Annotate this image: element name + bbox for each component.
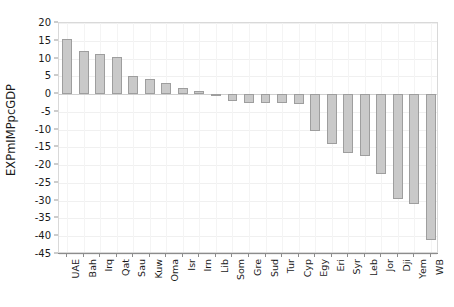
x-tick-label: Eri (335, 259, 346, 272)
bar (244, 94, 254, 103)
bar (62, 39, 72, 94)
x-tick-label: Lib (219, 259, 230, 273)
bar (409, 94, 419, 204)
bar (327, 94, 337, 144)
y-axis-tick-labels: 20151050-5-10-15-20-25-30-35-40-45 (22, 0, 54, 307)
x-tick-mark (231, 253, 232, 257)
y-tick-label: -30 (35, 194, 51, 205)
y-tick-mark (54, 110, 58, 111)
bar (310, 94, 320, 131)
bar (393, 94, 403, 199)
y-tick-mark (54, 75, 58, 76)
bar (95, 54, 105, 95)
y-tick-mark (54, 57, 58, 58)
y-tick-mark (54, 22, 58, 23)
x-tick-mark (116, 253, 117, 257)
x-axis-tick-labels: UAEBahIrqQatSauKuwOmaIsrIrnLibSomGreSudT… (58, 253, 438, 307)
x-tick-mark (248, 253, 249, 257)
x-tick-mark (83, 253, 84, 257)
y-tick-label: -25 (35, 176, 51, 187)
x-tick-label: Yem (417, 259, 428, 279)
y-tick-label: -20 (35, 159, 51, 170)
bar (194, 91, 204, 94)
x-tick-label: Qat (120, 259, 131, 276)
y-tick-label: -10 (35, 123, 51, 134)
y-tick-label: 5 (45, 70, 51, 81)
y-tick-label: -15 (35, 141, 51, 152)
bar (277, 94, 287, 103)
bar (360, 94, 370, 156)
x-tick-label: Gre (252, 259, 263, 276)
y-tick-label: 15 (38, 34, 51, 45)
x-tick-label: Kuw (153, 259, 164, 279)
x-tick-mark (215, 253, 216, 257)
x-tick-mark (413, 253, 414, 257)
y-tick-label: -45 (35, 248, 51, 259)
y-tick-mark (54, 93, 58, 94)
y-tick-mark (54, 146, 58, 147)
y-tick-mark (54, 181, 58, 182)
bar (145, 79, 155, 94)
y-tick-mark (54, 164, 58, 165)
x-tick-mark (165, 253, 166, 257)
bar (261, 94, 271, 103)
y-tick-mark (54, 128, 58, 129)
x-tick-mark (66, 253, 67, 257)
y-tick-label: -5 (41, 105, 51, 116)
x-tick-label: Irn (202, 259, 213, 272)
y-tick-label: 10 (38, 52, 51, 63)
x-tick-label: Irq (103, 259, 114, 272)
x-tick-mark (132, 253, 133, 257)
x-tick-label: Som (235, 259, 246, 280)
x-tick-mark (298, 253, 299, 257)
x-tick-mark (380, 253, 381, 257)
x-tick-mark (397, 253, 398, 257)
x-tick-label: Sud (269, 259, 280, 277)
x-tick-mark (281, 253, 282, 257)
bars-layer (59, 23, 437, 252)
y-axis-title-label: EXPmIMPpcGDP (4, 84, 18, 176)
x-tick-label: Leb (368, 259, 379, 276)
x-tick-label: WB (434, 259, 445, 275)
y-tick-label: -35 (35, 212, 51, 223)
x-tick-label: Jor (384, 259, 395, 272)
y-tick-label: -40 (35, 230, 51, 241)
bar (79, 51, 89, 94)
y-tick-mark (54, 235, 58, 236)
y-tick-mark (54, 199, 58, 200)
x-tick-mark (364, 253, 365, 257)
bar (161, 83, 171, 94)
x-tick-label: Bah (87, 259, 98, 277)
bar (376, 94, 386, 174)
x-tick-mark (314, 253, 315, 257)
bar (228, 94, 238, 101)
x-tick-label: Isr (186, 259, 197, 271)
bar-chart: EXPmIMPpcGDP 20151050-5-10-15-20-25-30-3… (0, 0, 454, 307)
x-tick-label: Syr (351, 259, 362, 275)
bar (128, 76, 138, 94)
x-tick-label: Sau (136, 259, 147, 277)
x-tick-mark (331, 253, 332, 257)
x-tick-mark (149, 253, 150, 257)
x-tick-mark (99, 253, 100, 257)
x-tick-mark (198, 253, 199, 257)
plot-area (58, 22, 438, 253)
bar (112, 57, 122, 94)
bar (178, 88, 188, 94)
y-tick-label: 20 (38, 17, 51, 28)
y-tick-mark (54, 217, 58, 218)
x-tick-label: Cyp (302, 259, 313, 277)
x-tick-label: Tur (285, 259, 296, 273)
x-tick-label: UAE (70, 259, 81, 278)
y-tick-mark (54, 253, 58, 254)
y-axis-title: EXPmIMPpcGDP (0, 0, 22, 260)
x-tick-label: Egy (318, 259, 329, 277)
bar (294, 94, 304, 104)
y-tick-label: 0 (45, 88, 51, 99)
bar (211, 94, 221, 96)
x-tick-label: Dji (401, 259, 412, 272)
x-tick-mark (182, 253, 183, 257)
bar (426, 94, 436, 240)
x-tick-mark (347, 253, 348, 257)
x-tick-mark (265, 253, 266, 257)
